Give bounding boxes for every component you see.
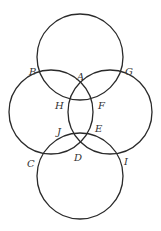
four-circle-diagram xyxy=(0,0,161,231)
point-label-i: I xyxy=(124,157,128,167)
point-label-c: C xyxy=(27,159,35,169)
point-label-d: D xyxy=(74,153,82,163)
point-label-a: A xyxy=(77,72,84,82)
point-label-b: B xyxy=(29,67,36,77)
point-label-e: E xyxy=(95,124,102,134)
point-label-g: G xyxy=(125,67,133,77)
circle-bottom xyxy=(37,133,123,219)
circle-top xyxy=(37,14,123,100)
point-label-h: H xyxy=(55,101,64,111)
point-label-f: F xyxy=(98,101,105,111)
point-label-j: J xyxy=(57,127,61,137)
circle-right xyxy=(68,70,152,154)
